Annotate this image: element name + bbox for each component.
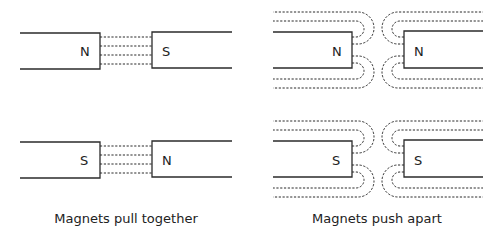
right-magnet: S <box>404 140 483 177</box>
pole-label-left: N <box>332 44 342 59</box>
pole-label-left: N <box>80 44 90 59</box>
panel-repel-nn: N N <box>273 12 483 88</box>
left-magnet: S <box>273 141 352 177</box>
left-magnet: N <box>20 33 100 69</box>
pole-label-left: S <box>332 153 340 168</box>
field-lines <box>100 146 152 173</box>
caption-repel: Magnets push apart <box>312 211 442 226</box>
magnet-diagram: N S S N N <box>0 0 500 237</box>
pole-label-right: S <box>414 153 422 168</box>
pole-label-right: N <box>414 44 424 59</box>
right-magnet: N <box>404 31 483 68</box>
left-magnet: S <box>20 142 100 178</box>
panel-repel-ss: S S <box>273 121 483 197</box>
field-lines <box>273 12 483 88</box>
left-magnet: N <box>273 32 352 68</box>
right-magnet: N <box>152 141 232 177</box>
pole-label-left: S <box>80 153 88 168</box>
field-lines <box>273 121 483 197</box>
pole-label-right: N <box>162 153 172 168</box>
panel-attract-ns: N S <box>20 32 232 69</box>
right-magnet: S <box>152 32 232 68</box>
pole-label-right: S <box>162 44 170 59</box>
caption-attract: Magnets pull together <box>54 211 198 226</box>
field-lines <box>100 37 152 64</box>
panel-attract-sn: S N <box>20 141 232 178</box>
